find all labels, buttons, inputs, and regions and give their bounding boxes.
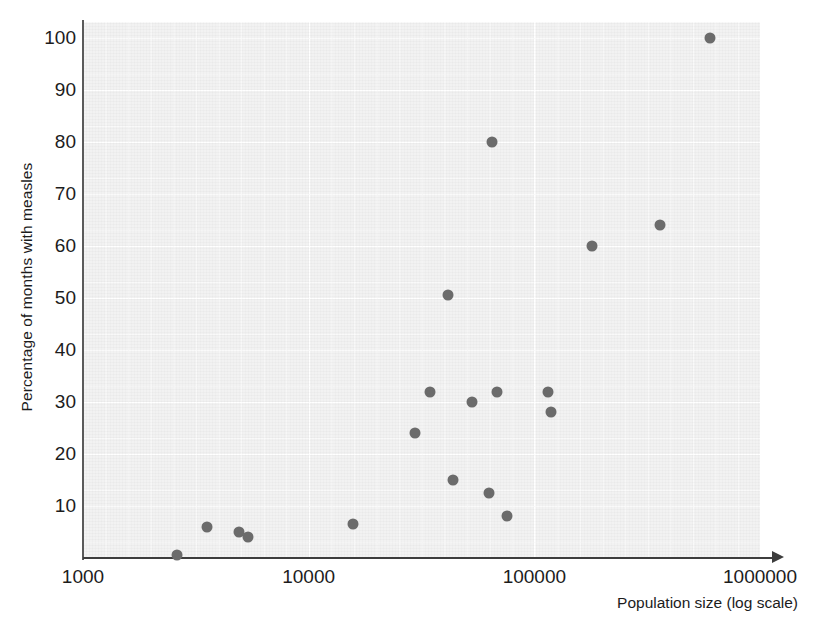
x-axis-line — [83, 557, 778, 559]
y-tick-label: 30 — [55, 391, 76, 413]
scatter-point — [704, 33, 715, 44]
scatter-point — [654, 220, 665, 231]
scatter-point — [243, 532, 254, 543]
scatter-point — [502, 511, 513, 522]
scatter-point — [425, 386, 436, 397]
scatter-point — [467, 397, 478, 408]
scatter-point — [171, 550, 182, 561]
scatter-point — [443, 290, 454, 301]
y-tick-label: 70 — [55, 183, 76, 205]
y-tick-label: 40 — [55, 339, 76, 361]
y-tick-label: 10 — [55, 495, 76, 517]
y-gridline — [83, 506, 760, 507]
scatter-point — [545, 407, 556, 418]
x-tick-label: 10000 — [282, 566, 335, 588]
plot-panel — [83, 22, 760, 558]
x-axis-title: Population size (log scale) — [617, 594, 798, 612]
x-axis-arrow-icon — [772, 551, 784, 563]
y-gridline — [83, 194, 760, 195]
scatter-point — [409, 428, 420, 439]
scatter-point — [348, 519, 359, 530]
y-tick-label: 100 — [44, 27, 76, 49]
y-tick-label: 80 — [55, 131, 76, 153]
x-gridline — [760, 22, 761, 558]
y-gridline — [83, 298, 760, 299]
scatter-point — [202, 521, 213, 532]
x-gridline — [309, 22, 310, 558]
y-gridline — [83, 350, 760, 351]
x-gridline — [534, 22, 535, 558]
y-tick-label: 60 — [55, 235, 76, 257]
y-gridline — [83, 246, 760, 247]
y-gridline — [83, 38, 760, 39]
scatter-point — [484, 488, 495, 499]
scatter-point — [487, 137, 498, 148]
y-axis-line — [82, 20, 84, 560]
y-tick-label: 50 — [55, 287, 76, 309]
y-gridline — [83, 402, 760, 403]
scatter-point — [491, 386, 502, 397]
y-tick-label: 90 — [55, 79, 76, 101]
scatter-point — [543, 386, 554, 397]
chart-figure: 102030405060708090100 100010000100000100… — [0, 0, 816, 631]
scatter-point — [586, 241, 597, 252]
y-gridline — [83, 90, 760, 91]
x-tick-label: 1000 — [62, 566, 104, 588]
y-gridline — [83, 142, 760, 143]
y-axis-tick-labels: 102030405060708090100 — [0, 0, 76, 631]
y-gridline — [83, 454, 760, 455]
y-tick-label: 20 — [55, 443, 76, 465]
scatter-point — [447, 475, 458, 486]
x-tick-label: 100000 — [503, 566, 566, 588]
y-axis-title: Percentage of months with measles — [18, 7, 36, 567]
x-tick-label: 1000000 — [723, 566, 797, 588]
